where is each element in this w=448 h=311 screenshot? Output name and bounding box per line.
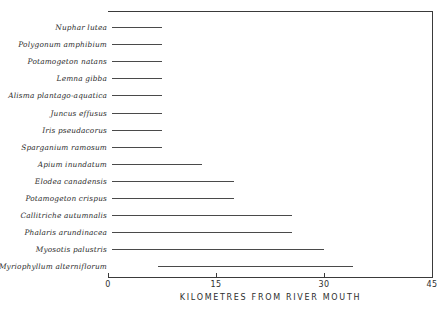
species-range-bar — [112, 232, 292, 233]
x-axis-tick-label: 0 — [105, 280, 111, 289]
species-row: Phalaris arundinacea — [0, 227, 448, 243]
species-label: Juncus effusus — [50, 108, 107, 119]
species-row: Lemna gibba — [0, 73, 448, 89]
species-row: Nuphar lutea — [0, 22, 448, 38]
species-row: Polygonum amphibium — [0, 39, 448, 55]
species-row: Iris pseudacorus — [0, 125, 448, 141]
species-label: Elodea canadensis — [35, 176, 107, 187]
species-row: Sparganium ramosum — [0, 142, 448, 158]
species-row: Callitriche autumnalis — [0, 210, 448, 226]
species-range-bar — [112, 27, 162, 28]
species-range-bar — [112, 181, 234, 182]
species-range-bar — [112, 44, 162, 45]
species-row: Juncus effusus — [0, 108, 448, 124]
x-axis-tick — [216, 273, 217, 278]
species-label: Iris pseudacorus — [42, 125, 107, 136]
species-label: Myriophyllum alterniflorum — [0, 261, 107, 272]
species-label: Nuphar lutea — [55, 22, 107, 33]
x-axis-label: KILOMETRES FROM RIVER MOUTH — [108, 293, 433, 302]
species-row: Myriophyllum alterniflorum — [0, 261, 448, 277]
species-row: Potamogeton natans — [0, 56, 448, 72]
x-axis-tick — [324, 273, 325, 278]
species-range-bar — [112, 61, 162, 62]
species-label: Callitriche autumnalis — [20, 210, 107, 221]
species-label: Myosotis palustris — [36, 244, 107, 255]
species-range-bar — [112, 78, 162, 79]
species-range-bar — [158, 266, 352, 267]
species-label: Alisma plantago-aquatica — [8, 90, 107, 101]
species-row: Alisma plantago-aquatica — [0, 90, 448, 106]
species-range-bar — [112, 164, 202, 165]
species-range-rows: Nuphar luteaPolygonum amphibiumPotamoget… — [0, 0, 448, 270]
x-axis-tick — [108, 273, 109, 278]
species-range-bar — [112, 198, 234, 199]
species-range-bar — [112, 215, 292, 216]
x-axis-line — [108, 277, 433, 278]
species-label: Potamogeton natans — [28, 56, 107, 67]
chart-figure: Nuphar luteaPolygonum amphibiumPotamoget… — [0, 0, 448, 311]
species-label: Potamogeton crispus — [25, 193, 107, 204]
species-range-bar — [112, 147, 162, 148]
species-row: Potamogeton crispus — [0, 193, 448, 209]
x-axis-tick-label: 30 — [319, 280, 330, 289]
species-row: Apium inundatum — [0, 159, 448, 175]
species-row: Myosotis palustris — [0, 244, 448, 260]
species-label: Sparganium ramosum — [21, 142, 107, 153]
species-range-bar — [112, 113, 162, 114]
x-axis-tick — [432, 273, 433, 278]
species-label: Apium inundatum — [38, 159, 107, 170]
species-range-bar — [112, 130, 162, 131]
species-label: Lemna gibba — [57, 73, 107, 84]
x-axis-tick-label: 15 — [211, 280, 222, 289]
species-label: Polygonum amphibium — [18, 39, 107, 50]
x-axis-tick-label: 45 — [427, 280, 438, 289]
species-row: Elodea canadensis — [0, 176, 448, 192]
species-range-bar — [112, 95, 162, 96]
species-range-bar — [112, 249, 324, 250]
species-label: Phalaris arundinacea — [24, 227, 107, 238]
